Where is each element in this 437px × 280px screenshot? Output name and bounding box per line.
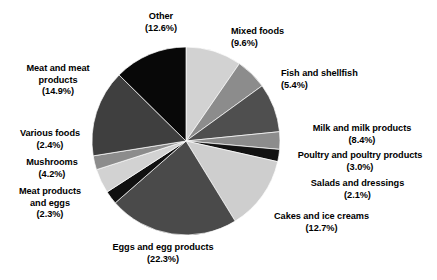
- pie-label-salads-and-dressings-percent: (2.1%): [285, 190, 430, 202]
- pie-label-fish-and-shellfish: Fish and shellfish (5.4%): [281, 68, 431, 91]
- pie-label-fish-and-shellfish-name: Fish and shellfish: [281, 68, 358, 78]
- pie-label-mushrooms-percent: (4.2%): [6, 169, 98, 181]
- pie-label-mixed-foods: Mixed foods (9.6%): [231, 26, 361, 49]
- pie-label-mixed-foods-name: Mixed foods: [231, 26, 284, 36]
- pie-label-other-name: Other: [149, 11, 173, 21]
- pie-label-various-foods-percent: (2.4%): [2, 140, 98, 152]
- pie-label-meat-and-meat-products-name: Meat and meat: [26, 63, 89, 73]
- pie-label-other-percent: (12.6%): [96, 23, 226, 35]
- pie-label-eggs-and-egg-products: Eggs and egg products (22.3%): [83, 242, 243, 265]
- pie-label-milk-and-milk-products-name: Milk and milk products: [313, 123, 411, 133]
- pie-label-milk-and-milk-products-percent: (8.4%): [287, 135, 437, 147]
- pie-label-cakes-and-ice-creams-name: Cakes and ice creams: [274, 211, 369, 221]
- pie-label-cakes-and-ice-creams-percent: (12.7%): [249, 223, 394, 235]
- pie-label-meat-products-and-eggs-line2: and eggs: [2, 198, 98, 210]
- pie-label-meat-and-meat-products-percent: (14.9%): [8, 86, 108, 98]
- pie-label-meat-products-and-eggs-name: Meat products: [19, 186, 81, 196]
- pie-label-meat-products-and-eggs-percent: (2.3%): [2, 209, 98, 221]
- pie-label-fish-and-shellfish-percent: (5.4%): [281, 80, 431, 92]
- pie-label-eggs-and-egg-products-name: Eggs and egg products: [112, 242, 213, 252]
- pie-label-eggs-and-egg-products-percent: (22.3%): [83, 254, 243, 266]
- pie-label-meat-products-and-eggs: Meat products and eggs (2.3%): [2, 186, 98, 221]
- pie-label-poultry-and-poultry-products-name: Poultry and poultry products: [298, 150, 423, 160]
- pie-label-cakes-and-ice-creams: Cakes and ice creams (12.7%): [249, 211, 394, 234]
- pie-label-poultry-and-poultry-products: Poultry and poultry products (3.0%): [283, 150, 437, 173]
- pie-label-mixed-foods-percent: (9.6%): [231, 38, 361, 50]
- pie-chart-figure: Other (12.6%) Mixed foods (9.6%) Fish an…: [0, 0, 437, 280]
- pie-label-mushrooms: Mushrooms (4.2%): [6, 157, 98, 180]
- pie-label-other: Other (12.6%): [96, 11, 226, 34]
- pie-label-various-foods-name: Various foods: [20, 128, 80, 138]
- pie-label-mushrooms-name: Mushrooms: [26, 157, 78, 167]
- pie-label-meat-and-meat-products: Meat and meat products (14.9%): [8, 63, 108, 98]
- pie-label-milk-and-milk-products: Milk and milk products (8.4%): [287, 123, 437, 146]
- pie-label-meat-and-meat-products-line2: products: [8, 75, 108, 87]
- pie-slice-group: [92, 47, 280, 235]
- pie-label-various-foods: Various foods (2.4%): [2, 128, 98, 151]
- pie-label-salads-and-dressings-name: Salads and dressings: [311, 178, 404, 188]
- pie-label-salads-and-dressings: Salads and dressings (2.1%): [285, 178, 430, 201]
- pie-label-poultry-and-poultry-products-percent: (3.0%): [283, 162, 437, 174]
